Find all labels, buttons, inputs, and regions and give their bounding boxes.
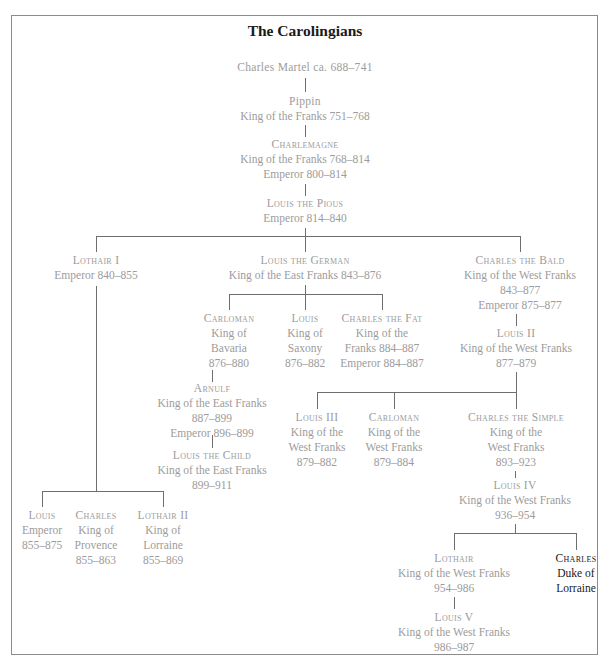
node-name: Louis II (460, 326, 572, 341)
node-name: Charlemagne (240, 137, 370, 152)
node-pippin: Pippin King of the Franks 751–768 (240, 94, 370, 124)
connector-line (42, 491, 163, 492)
node-detail: 879–884 (366, 455, 423, 470)
node-detail: 986–987 (398, 640, 510, 655)
node-detail: King of (204, 326, 255, 341)
connector-line (576, 533, 577, 550)
node-detail: 936–954 (459, 508, 571, 523)
node-detail: Saxony (285, 341, 325, 356)
node-louis-the-child: Louis the Child King of the East Franks … (157, 448, 266, 493)
node-louis-v: Louis V King of the West Franks 986–987 (398, 610, 510, 655)
node-name: Lothair II (138, 508, 189, 523)
node-detail: Lorraine (138, 538, 189, 553)
node-lothair-west: Lothair King of the West Franks 954–986 (398, 551, 510, 596)
node-detail: King of the West Franks (459, 493, 571, 508)
connector-line (516, 372, 517, 392)
node-detail: 899–911 (157, 478, 266, 493)
node-detail: West Franks (468, 440, 564, 455)
node-arnulf: Arnulf King of the East Franks 887–899 E… (157, 381, 266, 441)
node-detail: 893–923 (468, 455, 564, 470)
node-charles-provence: Charles King of Provence 855–863 (75, 508, 118, 568)
node-detail: 879–882 (289, 455, 346, 470)
connector-line (229, 294, 230, 310)
connector-line (305, 285, 306, 294)
connector-line (163, 491, 164, 507)
connector-line (515, 524, 516, 533)
node-detail: King of the (366, 425, 423, 440)
node-louis-ii-west: Louis II King of the West Franks 877–879 (460, 326, 572, 371)
node-carloman-west: Carloman King of the West Franks 879–884 (366, 410, 423, 470)
node-detail: 855–875 (22, 538, 62, 553)
node-name: Lothair I (54, 253, 137, 268)
node-detail: Duke of (556, 566, 597, 581)
node-detail: King of the Franks 751–768 (240, 109, 370, 124)
chart-title: The Carolingians (0, 22, 610, 40)
node-charles-the-fat: Charles the Fat King of the Franks 884–8… (340, 311, 423, 371)
node-charles-the-bald: Charles the Bald King of the West Franks… (464, 253, 576, 313)
node-detail: 954–986 (398, 581, 510, 596)
node-name: Charles the Simple (468, 410, 564, 425)
node-louis-the-german: Louis the German King of the East Franks… (229, 253, 381, 283)
node-name: Louis III (289, 410, 346, 425)
node-louis-the-pious: Louis the Pious Emperor 814–840 (263, 196, 346, 226)
node-name: Louis the German (229, 253, 381, 268)
node-name: Charles (556, 551, 597, 566)
node-detail: Lorraine (556, 581, 597, 596)
node-detail: 876–880 (204, 356, 255, 371)
node-name: Charles (75, 508, 118, 523)
node-charles-martel: Charles Martel ca. 688–741 (237, 60, 373, 75)
connector-line (454, 597, 455, 609)
node-detail: West Franks (289, 440, 346, 455)
node-name: Louis (22, 508, 62, 523)
node-name: Louis the Pious (263, 196, 346, 211)
node-detail: King of the East Franks (157, 396, 266, 411)
connector-line (96, 236, 521, 237)
node-louis-iv: Louis IV King of the West Franks 936–954 (459, 478, 571, 523)
connector-line (212, 370, 213, 382)
node-detail: Emperor 840–855 (54, 268, 137, 283)
node-detail: Emperor 814–840 (263, 211, 346, 226)
connector-line (212, 435, 213, 448)
node-lothair-ii: Lothair II King of Lorraine 855–869 (138, 508, 189, 568)
node-charlemagne: Charlemagne King of the Franks 768–814 E… (240, 137, 370, 182)
node-louis-saxony: Louis King of Saxony 876–882 (285, 311, 325, 371)
node-detail: King of the West Franks (398, 566, 510, 581)
node-detail: Emperor 884–887 (340, 356, 423, 371)
node-detail: 855–863 (75, 553, 118, 568)
node-name: Lothair (398, 551, 510, 566)
node-detail: 877–879 (460, 356, 572, 371)
connector-line (516, 392, 517, 409)
node-name: Charles the Bald (464, 253, 576, 268)
node-carloman-bavaria: Carloman King of Bavaria 876–880 (204, 311, 255, 371)
node-detail: King of the Franks 768–814 (240, 152, 370, 167)
node-name: Charles Martel ca. 688–741 (237, 60, 373, 75)
node-name: Louis the Child (157, 448, 266, 463)
connector-line (516, 314, 517, 326)
connector-line (305, 78, 306, 92)
node-name: Carloman (204, 311, 255, 326)
node-name: Carloman (366, 410, 423, 425)
node-detail: King of the East Franks (157, 463, 266, 478)
node-lothair-i: Lothair I Emperor 840–855 (54, 253, 137, 283)
node-name: Charles the Fat (340, 311, 423, 326)
node-detail: King of (75, 523, 118, 538)
node-detail: West Franks (366, 440, 423, 455)
node-detail: 855–869 (138, 553, 189, 568)
connector-line (454, 533, 576, 534)
connector-line (317, 392, 318, 409)
node-detail: King of (285, 326, 325, 341)
connector-line (382, 294, 383, 310)
connector-line (515, 471, 516, 478)
connector-line (305, 236, 306, 252)
node-detail: 843–877 (464, 283, 576, 298)
node-detail: Franks 884–887 (340, 341, 423, 356)
node-detail: Emperor (22, 523, 62, 538)
node-name: Pippin (240, 94, 370, 109)
node-detail: King of the West Franks (398, 625, 510, 640)
connector-line (394, 392, 395, 409)
node-detail: King of the West Franks (460, 341, 572, 356)
node-detail: 887–899 (157, 411, 266, 426)
connector-line (305, 294, 306, 310)
node-charles-duke-lorraine: Charles Duke of Lorraine (556, 551, 597, 596)
node-name: Louis (285, 311, 325, 326)
